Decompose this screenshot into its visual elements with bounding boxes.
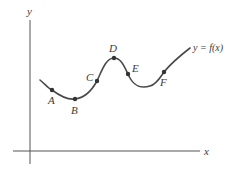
- curve-label: y = f(x): [192, 42, 224, 54]
- point-f: [162, 70, 166, 74]
- point-d-label: D: [108, 42, 117, 54]
- y-axis-label: y: [26, 5, 32, 17]
- function-curve: [40, 48, 190, 99]
- point-a-label: A: [47, 94, 55, 106]
- point-e-label: E: [131, 62, 139, 74]
- point-c: [95, 79, 99, 83]
- point-a: [50, 88, 54, 92]
- point-b: [73, 97, 77, 101]
- function-graph-figure: y x A B C D E F y = f(x): [0, 0, 240, 175]
- x-axis-label: x: [203, 145, 209, 157]
- point-c-label: C: [86, 71, 94, 83]
- point-b-label: B: [71, 104, 78, 116]
- point-d: [112, 56, 116, 60]
- point-f-label: F: [159, 76, 167, 88]
- point-e: [126, 72, 130, 76]
